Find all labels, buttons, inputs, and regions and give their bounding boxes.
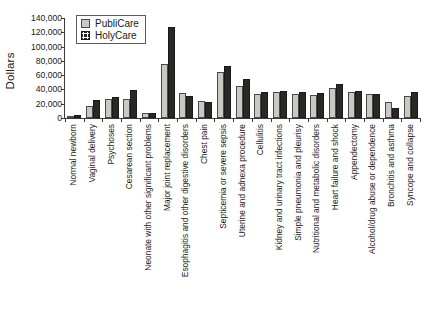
x-category-label: Alcohol/drug abuse or dependence [365, 124, 379, 254]
x-tick-mark [65, 118, 66, 122]
x-tick-mark [252, 118, 253, 122]
bar-group [252, 18, 271, 118]
bar-holycare [299, 92, 306, 118]
x-axis-category-labels: Normal newbornVaginal deliveryPsychosesC… [64, 124, 419, 324]
legend-label-publicare: PubliCare [95, 18, 139, 29]
bar-holycare [373, 94, 380, 118]
y-tick-label: 120,000 [31, 28, 62, 37]
bar-holycare [112, 97, 119, 118]
bar-group [345, 18, 364, 118]
x-category-label: Psychoses [104, 124, 118, 165]
bar-publicare [385, 102, 392, 118]
x-tick-mark [401, 118, 402, 122]
bar-holycare [243, 79, 250, 118]
x-category-label: Kidney and urinary tract infections [272, 124, 286, 250]
bar-holycare [186, 96, 193, 118]
bar-holycare [317, 93, 324, 118]
bar-publicare [236, 86, 243, 118]
x-category-label: Appendectomy [347, 124, 361, 180]
legend-label-holycare: HolyCare [95, 30, 137, 41]
y-tick-label: 100,000 [31, 42, 62, 51]
x-tick-mark [420, 118, 421, 122]
x-category-label: Neonate with other significant problems [141, 124, 155, 271]
x-category-label: Heart failure and shock [328, 124, 342, 210]
y-tick-label: 80,000 [36, 57, 62, 66]
x-tick-mark [177, 118, 178, 122]
bar-holycare [355, 91, 362, 118]
x-tick-mark [158, 118, 159, 122]
bar-holycare [261, 92, 268, 118]
x-tick-mark [214, 118, 215, 122]
x-tick-mark [196, 118, 197, 122]
bar-publicare [404, 96, 411, 118]
y-tick-mark [61, 89, 65, 90]
bar-group [308, 18, 327, 118]
bar-publicare [292, 94, 299, 118]
x-axis-tick-marks [65, 118, 420, 122]
x-category-label: Bronchitis and asthma [384, 124, 398, 207]
y-tick-label: 60,000 [36, 71, 62, 80]
bar-holycare [205, 102, 212, 118]
x-category-label: Cesarean section [122, 124, 136, 189]
bar-publicare [348, 92, 355, 118]
bar-publicare [310, 95, 317, 118]
bar-publicare [273, 92, 280, 118]
x-tick-mark [383, 118, 384, 122]
x-tick-mark [102, 118, 103, 122]
x-tick-mark [140, 118, 141, 122]
y-tick-mark [61, 47, 65, 48]
legend-swatch-publicare-icon [81, 19, 90, 28]
y-axis-title-text: Dollars [4, 52, 16, 89]
bar-publicare [198, 101, 205, 118]
x-category-label: Nutritional and metabolic disorders [309, 124, 323, 253]
bar-group [327, 18, 346, 118]
bar-publicare [105, 99, 112, 118]
bar-holycare [411, 92, 418, 118]
bar-holycare [224, 66, 231, 118]
bar-group [401, 18, 420, 118]
y-tick-mark [61, 18, 65, 19]
y-axis-title: Dollars [2, 26, 18, 116]
bar-publicare [217, 72, 224, 118]
x-category-label: Normal newborn [66, 124, 80, 185]
x-tick-mark [327, 118, 328, 122]
bar-publicare [329, 88, 336, 118]
legend-swatch-holycare-icon [81, 31, 90, 40]
chart-legend: PubliCare HolyCare [76, 15, 146, 44]
y-tick-mark [61, 32, 65, 33]
bar-holycare [336, 84, 343, 118]
y-tick-label: 40,000 [36, 85, 62, 94]
bar-holycare [168, 27, 175, 118]
y-tick-mark [61, 104, 65, 105]
y-axis-tick-labels: 020,00040,00060,00080,000100,000120,0001… [18, 0, 62, 330]
bar-chart: Dollars 020,00040,00060,00080,000100,000… [0, 0, 427, 330]
bar-group [289, 18, 308, 118]
x-category-label: Major joint replacement [160, 124, 174, 211]
x-category-label: Cellulitis [253, 124, 267, 155]
x-tick-mark [289, 118, 290, 122]
y-tick-label: 20,000 [36, 99, 62, 108]
x-tick-mark [345, 118, 346, 122]
x-tick-mark [121, 118, 122, 122]
bar-group [196, 18, 215, 118]
x-category-label: Chest pain [197, 124, 211, 164]
x-category-label: Uterine and adnexa procedure [235, 124, 249, 237]
bar-group [364, 18, 383, 118]
y-tick-mark [61, 61, 65, 62]
y-tick-mark [61, 75, 65, 76]
bar-publicare [366, 94, 373, 118]
x-category-label: Vaginal delivery [85, 124, 99, 183]
bar-group [177, 18, 196, 118]
bar-holycare [280, 91, 287, 118]
x-category-label: Syncope and collapse [403, 124, 417, 206]
bar-publicare [123, 99, 130, 118]
bar-holycare [392, 108, 399, 118]
bar-group [158, 18, 177, 118]
x-tick-mark [271, 118, 272, 122]
bar-publicare [86, 106, 93, 118]
legend-item-holycare: HolyCare [81, 30, 139, 41]
x-tick-mark [84, 118, 85, 122]
x-category-label: Septicemia or severe sepsis [216, 124, 230, 229]
y-tick-mark [61, 118, 65, 119]
x-category-label: Esophagitis and other digestive disorder… [178, 124, 192, 277]
